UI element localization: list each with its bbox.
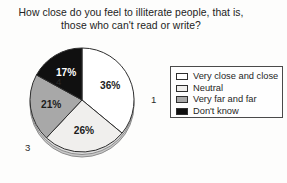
pie-value-label-2: 26% <box>74 125 94 136</box>
legend-label-1: Very close and close <box>193 71 278 82</box>
legend-item-neutral: Neutral <box>176 83 278 94</box>
pie-chart: 36%26%21%17% 1 2 3 4 <box>18 38 150 158</box>
pie-value-label-1: 36% <box>100 80 120 91</box>
chart-title: How close do you feel to illiterate peop… <box>0 6 262 32</box>
legend-item-very-close-and-close: Very close and close <box>176 71 278 82</box>
slice-number-3: 3 <box>25 143 30 153</box>
pie-value-label-3: 21% <box>41 99 61 110</box>
legend-swatch-icon-4 <box>176 108 188 115</box>
pie-chart-svg: 36%26%21%17% <box>18 38 150 158</box>
chart-title-line-2: those who can't read or write? <box>0 19 262 32</box>
legend-swatch-icon-3 <box>176 96 188 103</box>
legend-item-dont-know: Don't know <box>176 106 278 117</box>
chart-legend: Very close and close Neutral Very far an… <box>170 66 283 118</box>
legend-label-3: Very far and far <box>193 94 257 105</box>
slice-number-1: 1 <box>151 95 156 105</box>
legend-item-very-far-and-far: Very far and far <box>176 94 278 105</box>
legend-swatch-icon-1 <box>176 73 188 80</box>
chart-title-line-1: How close do you feel to illiterate peop… <box>0 6 262 19</box>
slice-number-4: 4 <box>56 77 61 87</box>
legend-swatch-icon-2 <box>176 85 188 92</box>
legend-label-2: Neutral <box>193 83 223 94</box>
legend-label-4: Don't know <box>193 106 239 117</box>
pie-chart-figure: How close do you feel to illiterate peop… <box>0 0 287 183</box>
